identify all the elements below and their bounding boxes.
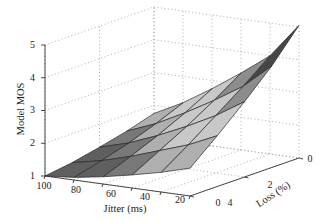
x-tick bbox=[160, 192, 161, 195]
z-tick-label: 4 bbox=[30, 72, 35, 83]
x-tick bbox=[131, 188, 132, 191]
x-tick-label: 40 bbox=[140, 191, 150, 202]
gridline bbox=[45, 73, 154, 111]
x-tick-label: 0 bbox=[216, 197, 221, 208]
surface-mesh bbox=[45, 25, 299, 177]
x-axis-label: Jitter (ms) bbox=[104, 203, 147, 215]
y-tick bbox=[245, 177, 249, 178]
y-tick bbox=[299, 158, 303, 159]
y-tick-label: 0 bbox=[308, 153, 313, 164]
z-tick-label: 3 bbox=[30, 104, 35, 115]
z-tick-label: 2 bbox=[30, 137, 35, 148]
x-tick-label: 60 bbox=[106, 188, 116, 199]
y-tick bbox=[190, 196, 194, 197]
x-tick-label: 20 bbox=[175, 194, 185, 205]
z-axis-label: Model MOS bbox=[15, 82, 26, 135]
z-tick-label: 5 bbox=[30, 39, 35, 50]
gridline bbox=[154, 7, 299, 27]
y-axis-label: Loss (%) bbox=[254, 179, 293, 210]
gridline bbox=[45, 7, 154, 45]
y-tick-label: 4 bbox=[228, 197, 233, 208]
surface-chart: 1 2 3 4 5 100 80 60 40 20 0 4 2 0 Model … bbox=[0, 0, 329, 221]
x-tick bbox=[73, 180, 74, 183]
x-tick-label: 80 bbox=[71, 184, 81, 195]
z-tick-label: 1 bbox=[30, 170, 35, 181]
x-tick bbox=[102, 184, 103, 187]
x-tick-label: 100 bbox=[37, 180, 52, 191]
x-axis bbox=[45, 176, 190, 196]
x-tick bbox=[189, 196, 190, 199]
